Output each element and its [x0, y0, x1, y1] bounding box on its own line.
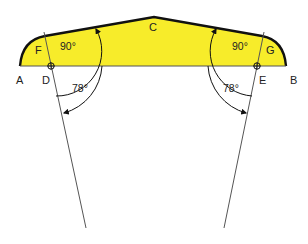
label-C: C	[149, 21, 157, 33]
label-G: G	[266, 44, 275, 56]
label-B: B	[290, 74, 297, 86]
diagram-canvas: A B C D E F G 90° 90° 78° 78°	[0, 0, 308, 244]
label-E: E	[259, 74, 266, 86]
point-E-marker-icon	[254, 63, 261, 70]
angle-label-left-78: 78°	[72, 82, 88, 94]
angle-label-right-78: 78°	[223, 82, 239, 94]
angle-label-left-90: 90°	[60, 40, 76, 52]
angle-label-right-90: 90°	[232, 40, 248, 52]
label-A: A	[16, 74, 24, 86]
label-F: F	[35, 44, 42, 56]
label-D: D	[42, 74, 50, 86]
point-D-marker-icon	[48, 63, 55, 70]
